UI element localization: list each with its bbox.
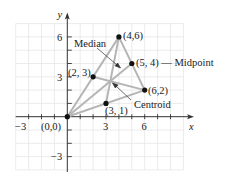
label-midpoint-upper-right: (5, 4) — Midpoint: [136, 57, 214, 69]
y-tick-label-6: 6: [57, 32, 62, 43]
label-vertex-right: (6,2): [148, 85, 169, 97]
tick-marks: [29, 37, 171, 157]
coordinate-diagram: y x −3 3 6 6 3 −3 (0,0) (4,6) (6,2) (2, …: [0, 0, 228, 184]
midpoint-upper-right: [129, 61, 134, 66]
y-tick-label-neg3: −3: [51, 151, 62, 162]
centroid-annotation: Centroid: [134, 99, 171, 110]
x-tick-label-neg3: −3: [15, 121, 26, 132]
label-midpoint-left: (2, 3): [68, 67, 91, 79]
y-axis-label: y: [57, 9, 63, 20]
midpoint-left: [91, 74, 96, 79]
x-axis-label: x: [188, 121, 194, 132]
vertex-right: [142, 88, 147, 93]
y-tick-label-3: 3: [57, 72, 62, 83]
vertex-top: [116, 34, 121, 39]
label-origin: (0,0): [41, 121, 62, 133]
median-annotation: Median: [74, 38, 107, 49]
label-vertex-top: (4,6): [123, 30, 144, 42]
annotation-arrows: [97, 48, 131, 100]
x-tick-label-6: 6: [142, 121, 147, 132]
x-tick-label-3: 3: [103, 121, 108, 132]
vertex-origin: [65, 114, 70, 119]
label-midpoint-bottom: (3, 1): [105, 105, 128, 117]
